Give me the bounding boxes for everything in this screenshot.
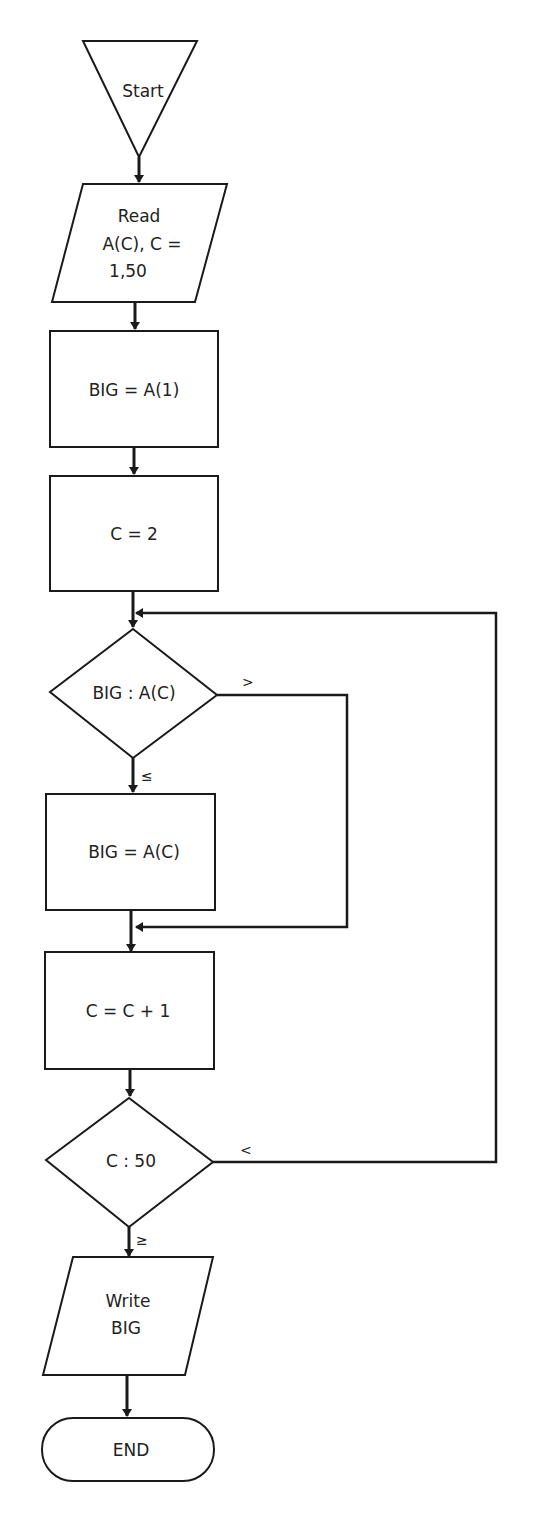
assign-big-label: BIG = A(C) — [88, 842, 180, 862]
start-node: Start — [83, 41, 197, 157]
compare-big-decision: BIG : A(C) — [50, 629, 217, 758]
write-label-line-2: BIG — [111, 1318, 141, 1338]
write-output-node: Write BIG — [43, 1257, 213, 1375]
read-label-line-1: Read — [118, 206, 161, 226]
assign-big-process: BIG = A(C) — [46, 794, 215, 910]
flowchart-canvas: Start Read A(C), C = 1,50 BIG = A(1) C =… — [0, 0, 533, 1517]
branch-label-less-equal: ≤ — [141, 768, 153, 784]
read-label-line-3: 1,50 — [109, 261, 147, 281]
compare-c-label: C : 50 — [106, 1151, 156, 1171]
write-label-line-1: Write — [106, 1291, 151, 1311]
branch-label-less: < — [240, 1142, 252, 1158]
read-label-line-2: A(C), C = — [102, 234, 181, 254]
init-c-label: C = 2 — [110, 524, 158, 544]
increment-label: C = C + 1 — [86, 1001, 171, 1021]
start-label: Start — [122, 81, 164, 101]
branch-label-greater-equal: ≥ — [136, 1232, 148, 1248]
read-input-node: Read A(C), C = 1,50 — [52, 184, 227, 302]
init-big-label: BIG = A(1) — [89, 380, 180, 400]
branch-label-greater: > — [242, 674, 254, 690]
init-c-process: C = 2 — [50, 476, 218, 591]
write-parallelogram-shape — [43, 1257, 213, 1375]
end-node: END — [42, 1418, 214, 1481]
init-big-process: BIG = A(1) — [50, 331, 218, 447]
compare-big-label: BIG : A(C) — [92, 683, 175, 703]
compare-c-decision: C : 50 — [46, 1098, 213, 1227]
increment-process: C = C + 1 — [45, 952, 214, 1069]
end-label: END — [113, 1440, 150, 1460]
